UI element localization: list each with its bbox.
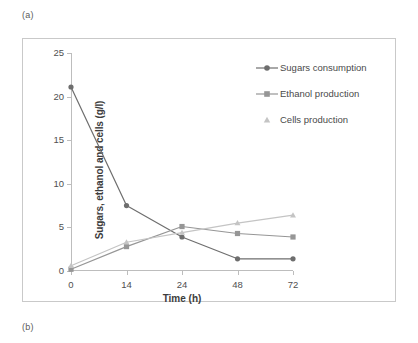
x-axis-tick-label: 14 <box>121 280 132 290</box>
panel-label-b: (b) <box>22 322 34 332</box>
legend-marker-circle-icon <box>255 62 279 74</box>
legend-marker-square-icon <box>255 88 279 100</box>
data-point-square <box>235 231 240 236</box>
legend-item-1[interactable]: Sugars consumption <box>255 55 391 81</box>
legend-marker-triangle-icon <box>255 114 279 126</box>
series-3 <box>68 212 296 268</box>
data-point-square <box>290 234 295 239</box>
chart-frame: Sugars, ethanol and cells (g/l) Time (h)… <box>22 38 396 302</box>
legend-item-2[interactable]: Ethanol production <box>255 81 391 107</box>
x-axis-title: Time (h) <box>71 293 293 304</box>
legend-item-3[interactable]: Cells production <box>255 107 391 133</box>
x-axis-tick <box>238 271 239 275</box>
chart-legend: Sugars consumptionEthanol productionCell… <box>255 55 391 133</box>
x-axis-tick-label: 0 <box>68 280 73 290</box>
x-axis-tick <box>293 271 294 275</box>
y-axis-tick-label: 20 <box>53 92 64 102</box>
data-point-square <box>179 224 184 229</box>
y-axis-tick-label: 10 <box>53 179 64 189</box>
data-point-square <box>124 244 129 249</box>
panel-label-a: (a) <box>22 10 34 20</box>
data-point-circle <box>179 234 184 239</box>
x-axis-tick <box>127 271 128 275</box>
legend-label: Cells production <box>280 115 348 125</box>
data-point-circle <box>124 203 129 208</box>
x-axis-tick-label: 72 <box>288 280 299 290</box>
data-point-circle <box>290 256 295 261</box>
legend-label: Sugars consumption <box>280 63 367 73</box>
x-axis-tick-label: 48 <box>232 280 243 290</box>
legend-label: Ethanol production <box>280 89 359 99</box>
data-point-circle <box>235 256 240 261</box>
series-line <box>71 215 293 266</box>
y-axis-tick-label: 5 <box>59 223 64 233</box>
x-axis-tick-label: 24 <box>177 280 188 290</box>
y-axis-tick-label: 25 <box>53 48 64 58</box>
y-axis-tick-label: 15 <box>53 135 64 145</box>
data-point-triangle <box>290 212 296 217</box>
y-axis-tick-label: 0 <box>59 266 64 276</box>
x-axis-tick <box>182 271 183 275</box>
data-point-circle <box>68 84 73 89</box>
